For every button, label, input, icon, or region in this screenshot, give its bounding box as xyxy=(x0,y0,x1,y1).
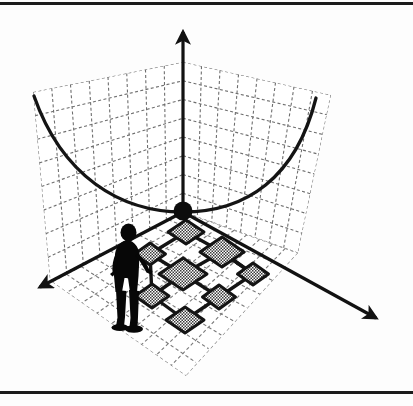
figure-illustration xyxy=(0,0,413,406)
figure-page xyxy=(0,0,413,406)
origin-sphere xyxy=(174,202,193,221)
